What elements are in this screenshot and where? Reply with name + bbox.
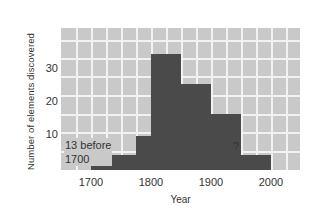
x-tick-label-1700: 1700 — [71, 176, 111, 188]
y-tick-label-20: 20 — [32, 96, 58, 107]
annotation-before-1700: 13 before 1700 — [64, 138, 112, 166]
annotation-question-mark: ? — [233, 141, 239, 152]
x-tick-label-2000: 2000 — [251, 176, 291, 188]
plot-area: 13 before 1700 ? — [61, 28, 300, 170]
bar-1800-1850 — [151, 54, 181, 170]
x-axis-tick-labels: 1700 1800 1900 2000 — [61, 176, 300, 192]
bar-1950-2000 — [241, 155, 271, 170]
x-tick-label-1800: 1800 — [131, 176, 171, 188]
bar-1775-1800 — [136, 136, 151, 170]
y-axis-tick-labels: 30 20 10 — [28, 0, 58, 219]
x-axis-title: Year — [61, 194, 300, 205]
annotation-before-1700-line1: 13 before — [64, 138, 112, 152]
annotation-before-1700-line2: 1700 — [64, 152, 112, 166]
bar-1850-1900 — [181, 84, 211, 170]
y-tick-label-30: 30 — [32, 63, 58, 74]
x-tick-label-1900: 1900 — [191, 176, 231, 188]
gridline-vertical — [256, 28, 258, 170]
gridline-vertical — [241, 28, 243, 170]
y-tick-label-10: 10 — [32, 129, 58, 140]
gridline-vertical — [286, 28, 288, 170]
elements-discovered-histogram: Number of elements discovered 30 20 10 — [0, 0, 312, 219]
gridline-vertical — [271, 28, 273, 170]
gridline-vertical — [121, 28, 123, 170]
